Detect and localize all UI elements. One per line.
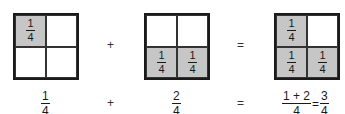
fraction-one-quarter: 1 4 [157,50,165,75]
fraction-one-quarter: 1 4 [318,50,326,75]
fraction-one-quarter: 1 4 [26,18,34,43]
fraction-one-quarter: 1 4 [287,50,295,75]
cell-empty [46,15,77,47]
caption-one-quarter: 1 4 [41,90,50,114]
area-model-three-quarters: 1 4 1 4 1 4 [274,13,340,80]
cell-empty [146,15,177,47]
cell-shaded: 1 4 [276,15,307,47]
caption-sum-equation: 1 + 2 4 = 3 4 [282,90,329,114]
fraction-one-quarter: 1 4 [287,18,295,43]
cell-empty [15,47,46,79]
cell-empty [177,15,208,47]
cell-shaded: 1 4 [146,47,177,79]
plus-sign: + [107,38,114,52]
cell-empty [46,47,77,79]
area-model-two-quarters: 1 4 1 4 [144,13,210,80]
cell-shaded: 1 4 [307,47,338,79]
cell-shaded: 1 4 [276,47,307,79]
cell-shaded: 1 4 [15,15,46,47]
equals-sign: = [237,96,244,110]
equals-sign: = [312,97,319,111]
caption-two-quarters: 2 4 [172,90,181,114]
plus-sign: + [107,96,114,110]
area-model-one-quarter: 1 4 [13,13,79,80]
cell-empty [307,15,338,47]
cell-shaded: 1 4 [177,47,208,79]
fraction-one-quarter: 1 4 [188,50,196,75]
equals-sign: = [237,38,244,52]
